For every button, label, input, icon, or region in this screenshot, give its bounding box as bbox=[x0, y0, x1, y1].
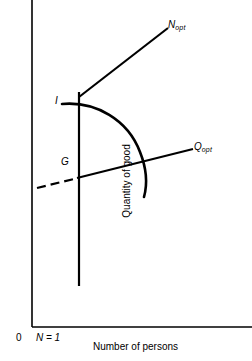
q-opt-dashed-extension bbox=[37, 178, 78, 188]
n-equals-one-tick-label: N = 1 bbox=[36, 333, 60, 343]
n-opt-label: Nopt bbox=[168, 20, 186, 30]
optimum-population-diagram: Nopt Qopt I G 0 N = 1 Number of persons … bbox=[0, 0, 252, 361]
point-i-label: I bbox=[55, 96, 58, 106]
indifference-curve bbox=[62, 104, 146, 197]
x-axis-label: Number of persons bbox=[93, 342, 178, 352]
n-opt-line bbox=[79, 28, 168, 97]
q-opt-label: Qopt bbox=[194, 142, 212, 152]
point-g-label: G bbox=[61, 157, 69, 167]
q-opt-line bbox=[77, 149, 193, 178]
origin-label: 0 bbox=[16, 333, 22, 343]
